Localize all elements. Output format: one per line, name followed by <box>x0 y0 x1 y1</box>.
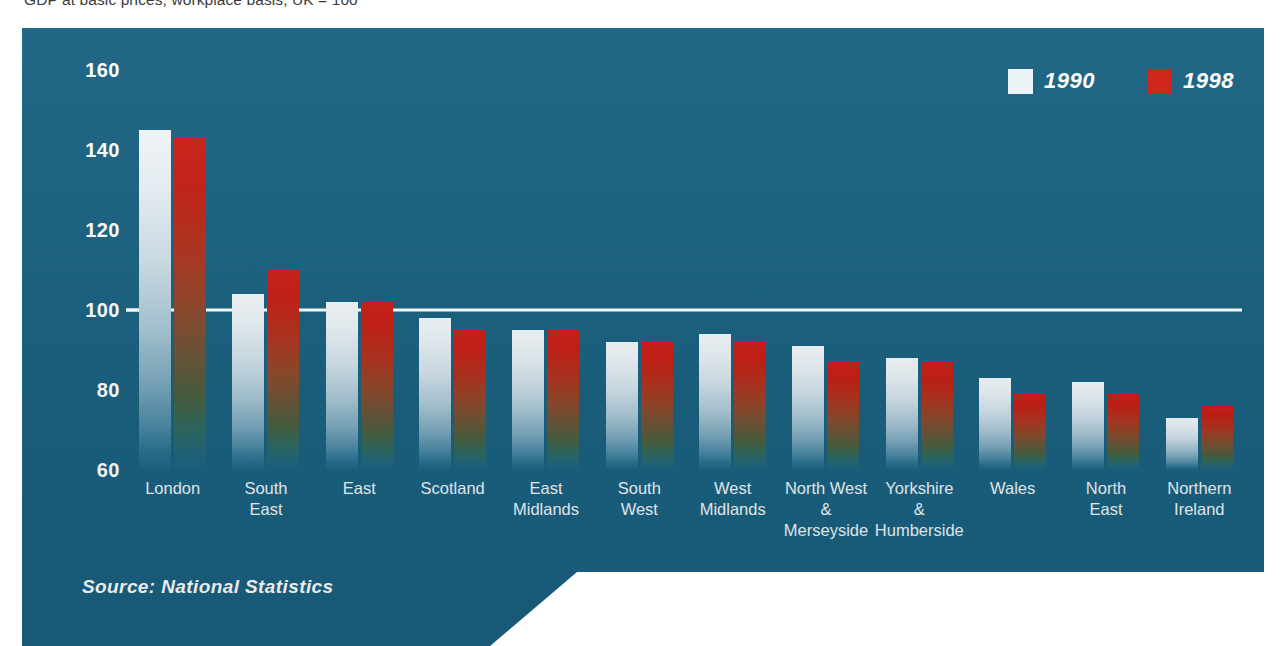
x-axis-label: Northern Ireland <box>1153 478 1246 520</box>
bar-group <box>966 28 1059 470</box>
chart-subtitle: GDP at basic prices, workplace basis, UK… <box>24 0 358 9</box>
bar-1990[interactable] <box>232 294 264 470</box>
bar-1990[interactable] <box>1166 418 1198 470</box>
y-axis-tick-160: 160 <box>56 59 120 82</box>
legend-swatch-1998-icon <box>1147 69 1172 94</box>
bar-1990[interactable] <box>1072 382 1104 470</box>
bar-1990[interactable] <box>326 302 358 470</box>
bar-group <box>1059 28 1152 470</box>
legend-label-1998: 1998 <box>1183 68 1234 94</box>
bar-1998[interactable] <box>921 362 953 470</box>
x-axis-label: London <box>126 478 219 499</box>
bar-group <box>126 28 219 470</box>
legend-item-1998[interactable]: 1998 <box>1147 68 1234 94</box>
bar-1998[interactable] <box>1107 394 1139 470</box>
x-axis-label: North East <box>1059 478 1152 520</box>
y-axis-tick-80: 80 <box>56 379 120 402</box>
y-axis-tick-120: 120 <box>56 219 120 242</box>
bar-1998[interactable] <box>1014 394 1046 470</box>
chart-legend: 1990 1998 <box>1008 68 1234 94</box>
x-axis-label: North West & Merseyside <box>779 478 872 541</box>
legend-swatch-1990-icon <box>1008 69 1033 94</box>
bar-1998[interactable] <box>547 330 579 470</box>
legend-label-1990: 1990 <box>1044 68 1095 94</box>
x-axis-label: East Midlands <box>499 478 592 520</box>
bar-1990[interactable] <box>139 130 171 470</box>
y-axis-tick-140: 140 <box>56 139 120 162</box>
bar-1990[interactable] <box>419 318 451 470</box>
x-axis-label: West Midlands <box>686 478 779 520</box>
bar-1998[interactable] <box>1201 406 1233 470</box>
plot-area: 1601401201008060 LondonSouth EastEastSco… <box>22 28 1264 646</box>
bar-1990[interactable] <box>792 346 824 470</box>
bar-1998[interactable] <box>641 342 673 470</box>
x-axis-label: Yorkshire & Humberside <box>873 478 966 541</box>
bar-group <box>406 28 499 470</box>
x-axis-label: East <box>313 478 406 499</box>
bar-group <box>593 28 686 470</box>
chart-panel: 1601401201008060 LondonSouth EastEastSco… <box>22 28 1264 646</box>
x-axis-label: South West <box>593 478 686 520</box>
bar-group <box>313 28 406 470</box>
bar-1998[interactable] <box>827 362 859 470</box>
bar-group <box>219 28 312 470</box>
x-axis-label: Wales <box>966 478 1059 499</box>
bar-1990[interactable] <box>699 334 731 470</box>
bar-1990[interactable] <box>606 342 638 470</box>
bar-1990[interactable] <box>979 378 1011 470</box>
x-axis-label: Scotland <box>406 478 499 499</box>
bar-group <box>873 28 966 470</box>
bar-1990[interactable] <box>886 358 918 470</box>
source-note: Source: National Statistics <box>82 576 334 598</box>
bar-group <box>686 28 779 470</box>
y-axis-tick-100: 100 <box>56 299 120 322</box>
x-axis-labels: LondonSouth EastEastScotlandEast Midland… <box>126 478 1246 588</box>
bar-1998[interactable] <box>174 138 206 470</box>
bar-1998[interactable] <box>454 330 486 470</box>
x-axis-label: South East <box>219 478 312 520</box>
bar-1998[interactable] <box>267 270 299 470</box>
y-axis-tick-60: 60 <box>56 459 120 482</box>
bar-group <box>499 28 592 470</box>
bar-1998[interactable] <box>734 342 766 470</box>
legend-item-1990[interactable]: 1990 <box>1008 68 1095 94</box>
bar-group <box>1153 28 1246 470</box>
bar-1998[interactable] <box>361 302 393 470</box>
bar-1990[interactable] <box>512 330 544 470</box>
bar-group <box>779 28 872 470</box>
